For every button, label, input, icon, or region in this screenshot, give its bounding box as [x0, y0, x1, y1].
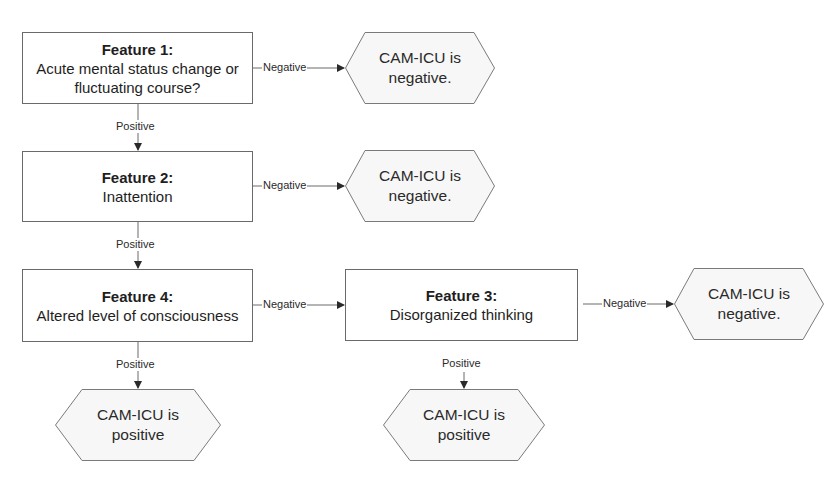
result-text-line2: positive: [112, 425, 165, 445]
result-positive-2: CAM-ICU is positive: [383, 389, 545, 461]
edge-label-positive: Positive: [115, 358, 156, 371]
feature-3-title: Feature 3:: [426, 286, 498, 305]
edge-label-positive: Positive: [115, 238, 156, 251]
result-text-line1: CAM-ICU is: [379, 48, 461, 68]
edge-label-negative: Negative: [262, 61, 307, 74]
feature-2-box: Feature 2: Inattention: [22, 151, 253, 222]
edge-label-negative: Negative: [262, 179, 307, 192]
edge-label-positive: Positive: [441, 357, 482, 370]
result-text-line1: CAM-ICU is: [97, 405, 179, 425]
result-text-line2: negative.: [389, 68, 452, 88]
feature-3-box: Feature 3: Disorganized thinking: [345, 269, 578, 341]
edge-label-positive: Positive: [115, 120, 156, 133]
feature-1-title: Feature 1:: [102, 40, 174, 59]
result-text-line2: positive: [438, 425, 491, 445]
feature-2-text: Inattention: [102, 187, 172, 206]
feature-1-text-line1: Acute mental status change or: [36, 59, 239, 78]
feature-2-title: Feature 2:: [102, 168, 174, 187]
feature-3-text: Disorganized thinking: [390, 305, 533, 324]
feature-4-box: Feature 4: Altered level of consciousnes…: [22, 269, 253, 342]
feature-1-box: Feature 1: Acute mental status change or…: [22, 32, 253, 104]
result-text-line1: CAM-ICU is: [423, 405, 505, 425]
result-positive-1: CAM-ICU is positive: [55, 389, 221, 461]
result-text-line2: negative.: [389, 186, 452, 206]
feature-4-title: Feature 4:: [102, 287, 174, 306]
feature-1-text-line2: fluctuating course?: [75, 78, 201, 97]
result-text-line1: CAM-ICU is: [708, 284, 790, 304]
result-text-line2: negative.: [718, 304, 781, 324]
feature-4-text: Altered level of consciousness: [37, 306, 239, 325]
edge-label-negative: Negative: [602, 297, 647, 310]
result-negative-1: CAM-ICU is negative.: [345, 32, 495, 104]
result-negative-3: CAM-ICU is negative.: [674, 268, 824, 340]
result-text-line1: CAM-ICU is: [379, 166, 461, 186]
edge-label-negative: Negative: [262, 298, 307, 311]
cam-icu-flowchart: Negative Positive Negative Positive Nega…: [0, 0, 839, 478]
result-negative-2: CAM-ICU is negative.: [345, 150, 495, 222]
